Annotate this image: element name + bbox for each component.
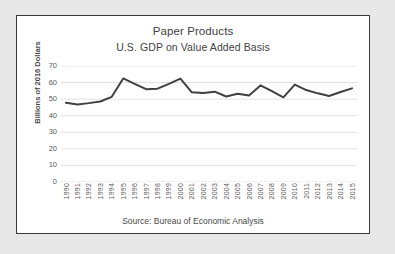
x-axis-tick-label: 2008 [268,183,275,199]
y-axis-tick-label: 40 [35,112,57,120]
y-axis-tick-label: 0 [35,178,57,186]
y-axis-tick-label: 30 [35,129,57,137]
x-axis-tick-label: 1997 [143,183,150,199]
x-axis-tick-label: 1993 [97,183,104,199]
y-axis-tick-labels: 706050403020100 [35,66,57,182]
y-axis-tick-label: 20 [35,145,57,153]
y-axis-tick-label: 50 [35,95,57,103]
x-axis-tick-label: 2005 [234,183,241,199]
chart-frame: Paper Products U.S. GDP on Value Added B… [16,15,370,234]
x-axis-tick-label: 2004 [223,183,230,199]
x-axis-tick-label: 1998 [154,183,161,199]
x-axis-tick-label: 2001 [188,183,195,199]
x-axis-tick-label: 1990 [63,183,70,199]
x-axis-tick-label: 2009 [280,183,287,199]
chart-container: Paper Products U.S. GDP on Value Added B… [17,16,369,233]
x-axis-tick-label: 1994 [108,183,115,199]
plot-area [61,66,357,182]
y-axis-tick-label: 60 [35,79,57,87]
x-axis-tick-label: 2007 [257,183,264,199]
x-axis-tick-labels: 1990199119921993199419951996199719981999… [61,183,357,217]
y-axis-tick-label: 10 [35,162,57,170]
y-axis-tick-label: 70 [35,62,57,70]
x-axis-tick-label: 2013 [326,183,333,199]
x-axis-tick-label: 2014 [337,183,344,199]
x-axis-tick-label: 2015 [349,183,356,199]
x-axis-tick-label: 2010 [291,183,298,199]
x-axis-tick-label: 1995 [120,183,127,199]
chart-plot-svg [61,66,357,182]
x-axis-tick-label: 1999 [165,183,172,199]
x-axis-tick-label: 2012 [314,183,321,199]
chart-title: Paper Products [17,25,369,37]
source-note: Source: Bureau of Economic Analysis [17,216,369,226]
x-axis-tick-label: 2000 [177,183,184,199]
x-axis-tick-label: 2006 [246,183,253,199]
x-axis-tick-label: 2002 [200,183,207,199]
gridlines [61,66,357,182]
chart-subtitle: U.S. GDP on Value Added Basis [17,41,369,53]
x-axis-tick-label: 1991 [74,183,81,199]
x-axis-tick-label: 1992 [85,183,92,199]
x-axis-tick-label: 2011 [303,183,310,199]
x-axis-tick-label: 2003 [211,183,218,199]
x-axis-tick-label: 1996 [131,183,138,199]
